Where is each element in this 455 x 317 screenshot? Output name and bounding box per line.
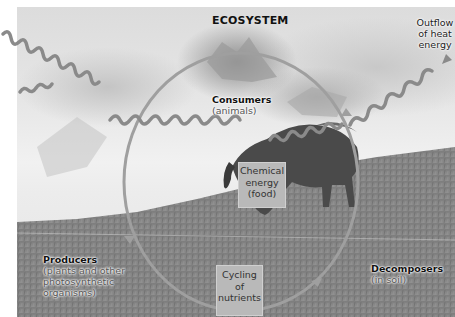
producers-desc-line2: photosynthetic (43, 276, 125, 287)
heat-outflow-arrow-icon (442, 54, 452, 64)
consumers-name: Consumers (212, 94, 271, 105)
cycle-arrow-icon (124, 236, 135, 244)
diagram-title: ECOSYSTEM (212, 14, 289, 27)
energy-wave-in (3, 32, 99, 85)
producers-desc-line3: organisms) (43, 287, 125, 298)
cycle-arrow-icon (341, 108, 352, 116)
decomposers-desc: (in soil) (371, 274, 443, 285)
nutrient-cycling-box: Cycling of nutrients (216, 265, 263, 316)
decomposers-name: Decomposers (371, 263, 443, 274)
energy-wave-branch (20, 84, 52, 92)
heat-outflow-label: Outflow of heat energy (415, 17, 455, 50)
chemical-energy-line2: energy (239, 177, 285, 189)
energy-wave-consumers-right (270, 123, 342, 140)
heat-outflow-line2: of heat (415, 28, 455, 39)
chemical-energy-line3: (food) (239, 188, 285, 200)
nutrient-cycling-line1: Cycling (217, 269, 262, 281)
nutrient-cycling-line2: of (217, 281, 262, 293)
heat-outflow-line1: Outflow (415, 17, 455, 28)
producers-label: Producers (plants and other photosynthet… (43, 254, 125, 298)
decomposers-label: Decomposers (in soil) (371, 263, 443, 285)
producers-desc-line1: (plants and other (43, 265, 125, 276)
consumers-label: Consumers (animals) (212, 94, 271, 116)
heat-outflow-wave (350, 70, 432, 125)
energy-wave-to-consumers (110, 116, 240, 124)
heat-outflow-line3: energy (415, 39, 455, 50)
consumers-desc: (animals) (212, 105, 271, 116)
chemical-energy-line1: Chemical (239, 165, 285, 177)
chemical-energy-box: Chemical energy (food) (238, 162, 286, 208)
ecosystem-diagram: ECOSYSTEM Outflow of heat energy Consume… (0, 0, 455, 317)
nutrient-cycling-line3: nutrients (217, 292, 262, 304)
producers-name: Producers (43, 254, 125, 265)
